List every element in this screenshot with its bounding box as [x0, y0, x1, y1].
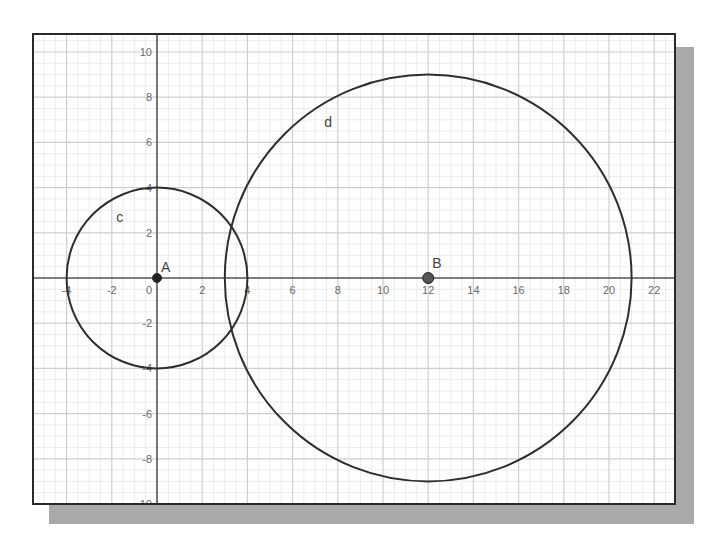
x-tick-label: 10 [377, 284, 389, 296]
x-tick-label: 8 [335, 284, 341, 296]
x-tick-label: 6 [290, 284, 296, 296]
y-tick-label: 8 [146, 91, 152, 103]
graphics-view[interactable]: -4-20246810121416182022246810-2-4-6-8-10… [32, 33, 676, 505]
x-tick-label: 14 [467, 284, 479, 296]
point-a-label: A [161, 259, 171, 275]
y-tick-label: -2 [142, 317, 152, 329]
y-tick-label: 2 [146, 227, 152, 239]
x-tick-label: 16 [512, 284, 524, 296]
y-tick-label: -10 [136, 498, 152, 505]
y-tick-label: 10 [140, 46, 152, 58]
x-tick-label: 22 [648, 284, 660, 296]
x-tick-label: -2 [107, 284, 117, 296]
point-b[interactable] [423, 273, 434, 284]
y-tick-label: -6 [142, 408, 152, 420]
x-tick-label: 12 [422, 284, 434, 296]
x-tick-label: 18 [558, 284, 570, 296]
point-b-label: B [432, 255, 441, 271]
x-tick-label: 2 [199, 284, 205, 296]
x-tick-label: 20 [603, 284, 615, 296]
circle-c-label: c [116, 209, 123, 225]
x-tick-label: 0 [146, 284, 152, 296]
y-tick-label: 6 [146, 136, 152, 148]
y-tick-label: -8 [142, 453, 152, 465]
coordinate-plane[interactable]: -4-20246810121416182022246810-2-4-6-8-10… [34, 35, 676, 505]
circle-d-label: d [324, 114, 332, 130]
